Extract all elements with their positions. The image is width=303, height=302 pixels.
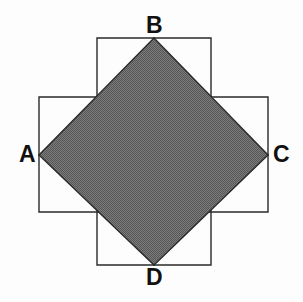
vertex-label-a: A: [19, 143, 36, 166]
vertex-label-c: C: [273, 143, 290, 166]
vertex-point-c: [267, 154, 269, 156]
vertex-label-d: D: [146, 266, 163, 289]
geometry-figure-svg: [0, 0, 303, 302]
vertex-point-a: [38, 154, 40, 156]
vertex-label-b: B: [146, 14, 163, 37]
figure-canvas: A B C D: [0, 0, 303, 302]
